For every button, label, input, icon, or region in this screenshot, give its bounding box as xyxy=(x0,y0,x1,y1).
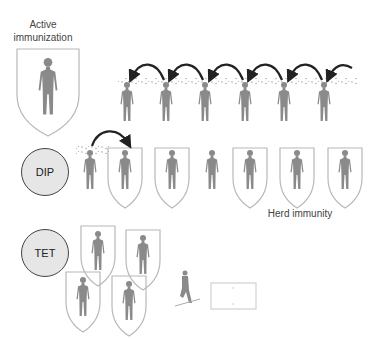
herd-immunity-label: Herd immunity xyxy=(265,207,335,220)
tet-cluster xyxy=(66,226,160,336)
tet-label: TET xyxy=(35,247,56,259)
dip-vaccine-circle: DIP xyxy=(21,148,69,196)
dip-label: DIP xyxy=(36,166,54,178)
active-immunization-shield xyxy=(17,49,79,136)
injured-person-icon xyxy=(175,271,200,307)
dip-row xyxy=(76,131,362,208)
blank-card-icon xyxy=(211,283,256,309)
tet-vaccine-circle: TET xyxy=(21,229,69,277)
transmission-chain-row xyxy=(118,65,358,121)
